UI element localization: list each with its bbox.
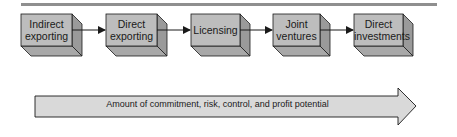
stage-label-4-line1: Joint — [273, 18, 320, 30]
stage-label-1-line1: Indirect — [21, 18, 72, 30]
stage-label-1: Indirect exporting — [21, 18, 72, 42]
stage-label-5-line2: investments — [354, 30, 403, 42]
stage-label-2-line1: Direct — [106, 18, 157, 30]
stage-label-3-line1: Licensing — [191, 24, 240, 36]
stage-label-5-line1: Direct — [354, 18, 403, 30]
stage-label-3: Licensing — [191, 24, 240, 36]
stage-label-2-line2: exporting — [106, 30, 157, 42]
stage-label-2: Direct exporting — [106, 18, 157, 42]
commitment-arrow-label: Amount of commitment, risk, control, and… — [35, 99, 400, 109]
stage-label-5: Direct investments — [354, 18, 403, 42]
stage-label-4-line2: ventures — [273, 30, 320, 42]
stage-label-4: Joint ventures — [273, 18, 320, 42]
stage-label-1-line2: exporting — [21, 30, 72, 42]
